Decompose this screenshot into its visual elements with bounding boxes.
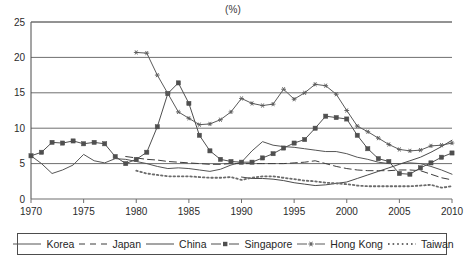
legend-label: Korea <box>45 238 75 250</box>
data-point-marker <box>376 157 380 161</box>
series-taiwan <box>136 171 452 188</box>
data-point-marker <box>134 157 138 161</box>
x-tick-label: 1980 <box>125 206 148 217</box>
legend-item-china[interactable]: China <box>142 238 207 250</box>
data-point-marker <box>292 141 296 145</box>
data-point-marker <box>345 117 349 121</box>
data-point-marker <box>176 81 180 85</box>
data-point-marker <box>71 139 75 143</box>
data-point-marker <box>113 154 117 158</box>
data-point-marker <box>229 159 233 163</box>
legend-label: China <box>178 238 207 250</box>
data-point-marker <box>145 150 149 154</box>
data-point-marker <box>60 141 64 145</box>
y-tick-label: 20 <box>14 52 26 63</box>
x-axis-tick-labels: 197019751980198519901995200020052010 <box>20 206 464 217</box>
legend-item-korea[interactable]: Korea <box>9 238 75 250</box>
plot-area: 0510152025 19701975198019851990199520002… <box>0 0 466 232</box>
legend-item-singapore[interactable]: Singapore <box>207 238 293 250</box>
data-point-marker <box>439 155 443 159</box>
data-point-marker <box>250 101 255 105</box>
solid-line-icon <box>12 239 42 249</box>
data-point-marker <box>271 152 275 156</box>
y-axis-tick-labels: 0510152025 <box>14 17 26 205</box>
legend-label: Hong Kong <box>329 238 384 250</box>
data-point-marker <box>144 51 149 55</box>
data-point-marker <box>50 140 54 144</box>
x-tick-label: 1995 <box>283 206 306 217</box>
data-point-marker <box>187 101 191 105</box>
x-tick-label: 1990 <box>230 206 253 217</box>
data-point-marker <box>82 142 86 146</box>
y-tick-label: 15 <box>14 87 26 98</box>
data-point-marker <box>366 147 370 151</box>
data-point-marker <box>208 122 213 126</box>
data-point-marker <box>39 150 43 154</box>
y-tick-label: 5 <box>19 158 25 169</box>
chart-legend: KoreaJapanChinaSingaporeHong KongTaiwan <box>17 233 447 255</box>
legend-item-japan[interactable]: Japan <box>75 238 142 250</box>
data-point-marker <box>197 133 201 137</box>
data-point-marker <box>155 125 159 129</box>
data-point-marker <box>218 157 222 161</box>
data-point-marker <box>92 140 96 144</box>
data-point-marker <box>397 147 402 151</box>
x-tick-label: 2005 <box>388 206 411 217</box>
data-point-marker <box>344 108 349 112</box>
y-tick-label: 25 <box>14 17 26 28</box>
series-korea <box>31 142 452 175</box>
legend-label: Taiwan <box>420 238 455 250</box>
data-point-marker <box>418 166 422 170</box>
square-marker-line-icon <box>210 239 240 249</box>
series-hong-kong <box>134 50 455 153</box>
data-point-marker <box>250 160 254 164</box>
data-point-marker <box>155 73 160 77</box>
legend-item-hong-kong[interactable]: Hong Kong <box>293 238 384 250</box>
data-point-marker <box>334 115 338 119</box>
data-point-marker <box>260 103 265 107</box>
y-tick-label: 10 <box>14 123 26 134</box>
data-point-marker <box>124 162 128 166</box>
data-point-marker <box>429 161 433 165</box>
data-point-marker <box>408 172 412 176</box>
data-point-marker <box>355 133 359 137</box>
series-line <box>242 140 453 185</box>
series-line <box>136 171 452 188</box>
data-point-marker <box>408 149 413 153</box>
line-chart: (%) 0510152025 1970197519801985199019952… <box>0 0 466 264</box>
data-point-marker <box>313 126 317 130</box>
x-tick-label: 2000 <box>336 206 359 217</box>
data-point-marker <box>208 149 212 153</box>
data-point-marker <box>271 102 276 106</box>
star-marker-line-icon <box>296 239 326 249</box>
legend-label: Singapore <box>243 238 293 250</box>
data-point-marker <box>239 160 243 164</box>
series-china <box>242 140 453 185</box>
data-point-marker <box>429 144 434 148</box>
solid-line-icon <box>145 239 175 249</box>
dashed-line-icon <box>78 239 108 249</box>
series-line <box>136 52 452 150</box>
legend-item-taiwan[interactable]: Taiwan <box>384 238 455 250</box>
data-point-marker <box>397 171 401 175</box>
data-point-marker <box>134 50 139 54</box>
axis-lines <box>31 22 452 199</box>
x-tick-label: 1970 <box>20 206 43 217</box>
dotted-line-icon <box>387 239 417 249</box>
data-point-marker <box>103 142 107 146</box>
data-point-marker <box>324 114 328 118</box>
data-point-marker <box>418 148 423 152</box>
data-point-marker <box>282 146 286 150</box>
y-tick-label: 0 <box>19 194 25 205</box>
legend-label: Japan <box>111 238 142 250</box>
data-point-marker <box>260 156 264 160</box>
data-point-marker <box>303 137 307 141</box>
series-line <box>31 142 452 175</box>
x-tick-label: 1975 <box>73 206 96 217</box>
data-point-marker <box>450 151 454 155</box>
data-point-marker <box>387 159 391 163</box>
x-tick-label: 1985 <box>178 206 201 217</box>
data-series-layer <box>29 50 455 187</box>
x-tick-label: 2010 <box>441 206 464 217</box>
x-axis-ticks <box>31 199 452 203</box>
